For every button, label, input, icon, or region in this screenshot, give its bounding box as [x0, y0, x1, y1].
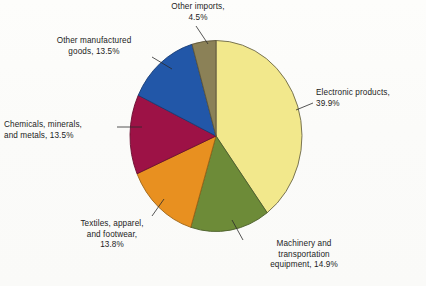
leader-line-other-imports: [196, 26, 208, 44]
leader-line-electronic-products: [296, 103, 313, 110]
pie-label-other-manufactured-goods: Other manufactured goods, 13.5%: [30, 36, 158, 57]
pie-label-electronic-products: Electronic products, 39.9%: [316, 88, 424, 109]
pie-slices-group: [130, 41, 302, 232]
pie-label-machinery-and-transportation-equipment: Machinery and transportation equipment, …: [243, 239, 365, 271]
pie-label-textiles-apparel-and-footwear: Textiles, apparel, and footwear, 13.8%: [56, 219, 168, 251]
pie-label-other-imports: Other imports, 4.5%: [142, 2, 254, 23]
pie-label-chemicals-minerals-and-metals: Chemicals, minerals, and metals, 13.5%: [4, 120, 122, 141]
pie-chart-figure: Other imports, 4.5% Other manufactured g…: [0, 0, 426, 286]
